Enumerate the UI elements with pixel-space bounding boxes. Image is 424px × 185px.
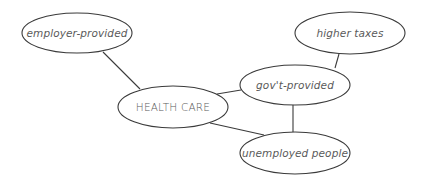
- edge-govt-taxes: [335, 54, 339, 68]
- label-health-care: HEALTH CARE: [136, 102, 210, 113]
- concept-map: employer-provided HEALTH CARE gov't-prov…: [0, 0, 424, 185]
- edge-health-unemployed: [210, 123, 264, 135]
- label-higher-taxes: higher taxes: [317, 28, 384, 39]
- label-govt-provided: gov't-provided: [256, 80, 334, 91]
- edge-employer-health: [103, 52, 140, 89]
- label-employer-provided: employer-provided: [27, 28, 128, 39]
- edges: [103, 52, 339, 135]
- label-unemployed-people: unemployed people: [242, 148, 348, 159]
- edge-health-govt: [217, 90, 241, 94]
